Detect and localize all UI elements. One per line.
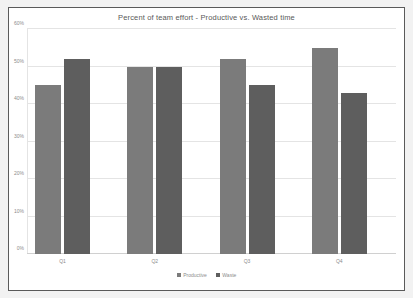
bar-productive-q1[interactable] — [35, 85, 61, 254]
bar-productive-q3[interactable] — [220, 59, 246, 254]
plot-area: 0%10%20%30%40%50%60% Q1Q2Q3Q4 — [27, 29, 396, 254]
bar-group: Q3 — [212, 29, 304, 254]
y-axis-tick-label: 20% — [14, 170, 24, 176]
legend-label: Productive — [183, 272, 207, 278]
y-axis-tick-label: 0% — [17, 245, 24, 251]
bar-series-container: Q1Q2Q3Q4 — [27, 29, 396, 254]
x-axis-tick-label: Q1 — [27, 258, 98, 264]
y-axis-tick-label: 10% — [14, 208, 24, 214]
y-axis-tick-label: 40% — [14, 95, 24, 101]
bar-productive-q2[interactable] — [127, 67, 153, 255]
chart-frame: Percent of team effort - Productive vs. … — [8, 7, 405, 291]
bar-waste-q2[interactable] — [156, 67, 182, 255]
bar-waste-q3[interactable] — [249, 85, 275, 254]
chart-legend: ProductiveWaste — [9, 272, 404, 278]
legend-swatch-icon — [216, 273, 220, 277]
bar-waste-q1[interactable] — [64, 59, 90, 254]
x-axis-tick-label: Q2 — [119, 258, 190, 264]
x-axis-tick-label: Q4 — [304, 258, 375, 264]
y-axis-tick-label: 50% — [14, 58, 24, 64]
chart-title: Percent of team effort - Productive vs. … — [9, 13, 404, 22]
x-axis-tick-label: Q3 — [212, 258, 283, 264]
bar-productive-q4[interactable] — [312, 48, 338, 254]
bar-group: Q4 — [304, 29, 396, 254]
legend-swatch-icon — [177, 273, 181, 277]
legend-label: Waste — [222, 272, 236, 278]
chart-screenshot: Percent of team effort - Productive vs. … — [0, 0, 413, 298]
bar-waste-q4[interactable] — [341, 93, 367, 254]
legend-item-waste[interactable]: Waste — [216, 272, 236, 278]
y-axis-tick-label: 30% — [14, 133, 24, 139]
bar-group: Q1 — [27, 29, 119, 254]
bar-group: Q2 — [119, 29, 211, 254]
chart-area: Percent of team effort - Productive vs. … — [9, 8, 404, 290]
legend-item-productive[interactable]: Productive — [177, 272, 207, 278]
y-axis-tick-label: 60% — [14, 20, 24, 26]
